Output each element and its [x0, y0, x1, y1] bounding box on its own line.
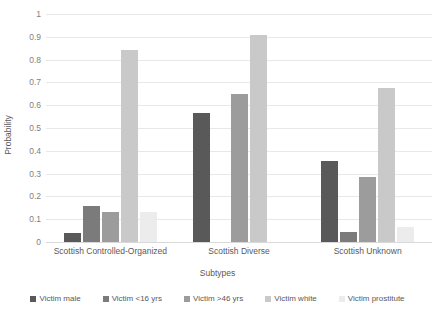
y-tick-label: 0.4	[29, 146, 41, 156]
y-tick-label: 0	[36, 237, 41, 247]
legend-label: Victim >46 yrs	[193, 294, 243, 303]
x-axis-categories: Scottish Controlled-OrganizedScottish Di…	[46, 246, 432, 256]
bar	[140, 212, 157, 242]
plot-wrapper: 00.10.20.30.40.50.60.70.80.91 Scottish C…	[18, 14, 432, 254]
legend-item[interactable]: Victim male	[30, 294, 80, 303]
legend-label: Victim <16 yrs	[112, 294, 162, 303]
y-axis-ticks: 00.10.20.30.40.50.60.70.80.91	[18, 14, 44, 242]
legend-label: Victim prostitute	[348, 294, 405, 303]
x-category-label: Scottish Controlled-Organized	[46, 246, 175, 256]
bar	[64, 233, 81, 242]
bar	[193, 113, 210, 242]
bar	[121, 50, 138, 242]
y-tick-label: 0.9	[29, 32, 41, 42]
bar-group	[46, 14, 175, 242]
bar	[83, 206, 100, 242]
plot-area	[46, 14, 432, 242]
x-category-label: Scottish Unknown	[303, 246, 432, 256]
legend-swatch-icon	[103, 296, 109, 302]
bar	[102, 212, 119, 242]
legend-swatch-icon	[265, 296, 271, 302]
bar	[321, 161, 338, 242]
legend-item[interactable]: Victim white	[265, 294, 317, 303]
legend-item[interactable]: Victim >46 yrs	[184, 294, 243, 303]
y-tick-label: 0.1	[29, 214, 41, 224]
bar	[378, 88, 395, 242]
bar-groups	[46, 14, 432, 242]
legend-swatch-icon	[30, 296, 36, 302]
bar	[397, 227, 414, 242]
legend-swatch-icon	[339, 296, 345, 302]
y-axis-title: Probability	[0, 0, 16, 270]
legend-item[interactable]: Victim <16 yrs	[103, 294, 162, 303]
y-tick-label: 1	[36, 9, 41, 19]
y-tick-label: 0.3	[29, 169, 41, 179]
bar	[340, 232, 357, 242]
bar	[250, 35, 267, 242]
bar-group	[175, 14, 304, 242]
y-tick-label: 0.8	[29, 55, 41, 65]
bar	[359, 177, 376, 242]
y-tick-label: 0.5	[29, 123, 41, 133]
legend-item[interactable]: Victim prostitute	[339, 294, 405, 303]
y-tick-label: 0.7	[29, 77, 41, 87]
legend-label: Victim male	[39, 294, 80, 303]
y-axis-title-text: Probability	[3, 115, 13, 155]
legend-swatch-icon	[184, 296, 190, 302]
bar	[231, 94, 248, 242]
legend-label: Victim white	[274, 294, 317, 303]
x-category-label: Scottish Diverse	[175, 246, 304, 256]
y-tick-label: 0.6	[29, 100, 41, 110]
bar-chart: Probability 00.10.20.30.40.50.60.70.80.9…	[0, 0, 435, 324]
chart-legend: Victim maleVictim <16 yrsVictim >46 yrsV…	[0, 294, 435, 303]
x-axis-title: Subtypes	[0, 268, 435, 278]
y-tick-label: 0.2	[29, 191, 41, 201]
bar-group	[303, 14, 432, 242]
axis-baseline	[46, 242, 432, 243]
